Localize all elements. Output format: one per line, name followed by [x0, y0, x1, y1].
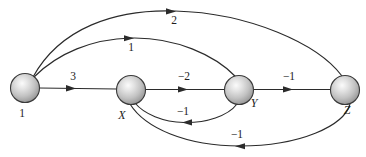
- edge-1-to-Y: [34, 35, 236, 77]
- node-Z-circle[interactable]: [331, 76, 360, 105]
- edge-1-to-Z-path: [33, 11, 342, 77]
- edge-X-to-Y: [145, 86, 225, 92]
- edge-1-to-X-path: [39, 88, 117, 89]
- edge-Y-to-Z-arrowhead: [283, 86, 293, 92]
- edge-1-to-Y-path: [34, 38, 236, 77]
- edge-1-to-Z: [33, 8, 342, 77]
- node-1-circle[interactable]: [11, 74, 40, 103]
- node-label-Z: Z: [344, 103, 351, 117]
- edge-weight-1-to-Y: 1: [128, 41, 134, 53]
- edge-weight-1-to-X: 3: [70, 70, 76, 82]
- edge-Z-to-X: [130, 104, 350, 149]
- node-label-X: X: [117, 108, 126, 122]
- edge-1-to-X-arrowhead: [66, 85, 76, 91]
- edge-weight-Z-to-X: −1: [231, 128, 243, 140]
- edge-X-to-Y-arrowhead: [178, 86, 188, 92]
- edge-Z-to-X-arrowhead: [235, 143, 245, 149]
- edge-weight-1-to-Z: 2: [171, 14, 177, 26]
- node-label-1: 1: [19, 107, 25, 119]
- node-Y-circle[interactable]: [225, 76, 254, 105]
- graph-canvas: 1 X Y Z 3 −2 −1 2 1 −1 −1: [0, 0, 366, 157]
- edges-layer: [33, 8, 350, 149]
- edge-1-to-X: [39, 85, 117, 91]
- edge-weight-X-to-Y: −2: [178, 70, 190, 82]
- weighted-digraph-figure: 1 X Y Z 3 −2 −1 2 1 −1 −1: [0, 0, 366, 157]
- edge-weight-Y-to-Z: −1: [283, 70, 295, 82]
- edge-weight-Y-to-X: −1: [177, 105, 189, 117]
- edge-Y-to-Z: [253, 86, 331, 92]
- node-label-Y: Y: [251, 96, 259, 110]
- edge-Y-to-X-arrowhead: [182, 119, 192, 125]
- edge-weight-labels-layer: 3 −2 −1 2 1 −1 −1: [70, 14, 295, 140]
- node-X-circle[interactable]: [117, 76, 146, 105]
